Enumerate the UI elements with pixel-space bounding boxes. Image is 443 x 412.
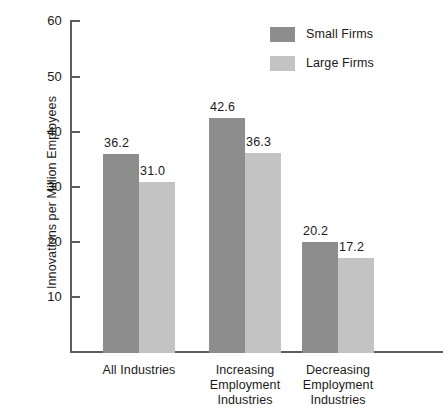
legend-label: Small Firms	[306, 28, 373, 41]
category-label-line: Decreasing	[278, 363, 398, 378]
y-axis-tick	[70, 186, 80, 188]
y-axis-tick	[70, 76, 80, 78]
bar	[302, 242, 338, 353]
legend-label: Large Firms	[306, 57, 374, 70]
y-axis-tick-label: 50	[16, 70, 62, 83]
x-axis-category-label: DecreasingEmploymentIndustries	[278, 363, 398, 408]
x-axis-category-label: All Industries	[79, 363, 199, 378]
category-label-line: Employment	[278, 378, 398, 393]
bar	[103, 154, 139, 353]
y-axis-tick-label: 30	[16, 180, 62, 193]
y-axis-tick	[70, 241, 80, 243]
y-axis-tick-label: 40	[16, 125, 62, 138]
y-axis-tick	[70, 296, 80, 298]
bar	[245, 153, 281, 353]
bar-value-label: 17.2	[339, 241, 364, 254]
legend-swatch	[270, 56, 295, 71]
bar-value-label: 42.6	[210, 101, 235, 114]
y-axis-tick	[70, 20, 80, 22]
y-axis-tick-label: 10	[16, 290, 62, 303]
bar-chart: Innovations per Million Employees 102030…	[0, 0, 443, 412]
bar-value-label: 36.3	[246, 136, 271, 149]
y-axis-tick-label: 20	[16, 235, 62, 248]
bar	[209, 118, 245, 353]
bar	[338, 258, 374, 353]
y-axis-tick-label: 60	[16, 14, 62, 27]
y-axis-tick	[70, 131, 80, 133]
bar-value-label: 31.0	[140, 165, 165, 178]
bar	[139, 182, 175, 353]
category-label-line: Industries	[278, 393, 398, 408]
legend-swatch	[270, 27, 295, 42]
category-label-line: All Industries	[79, 363, 199, 378]
bar-value-label: 20.2	[303, 225, 328, 238]
bar-value-label: 36.2	[104, 137, 129, 150]
